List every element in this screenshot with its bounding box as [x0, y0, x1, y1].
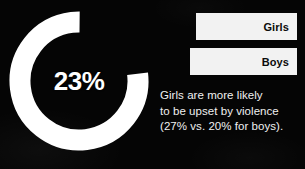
caption-line-2: to be upset by violence — [160, 104, 305, 120]
caption-line-1: Girls are more likely — [160, 88, 305, 104]
bar-boys[interactable]: Boys — [190, 48, 297, 75]
donut-chart: 23% — [8, 10, 150, 152]
caption-line-3: (27% vs. 20% for boys). — [160, 119, 305, 135]
bar-girls[interactable]: Girls — [196, 13, 297, 40]
infographic-panel: 23% Girls Boys Girls are more likely to … — [0, 0, 305, 169]
donut-center-value: 23% — [8, 10, 150, 152]
caption-text: Girls are more likely to be upset by vio… — [160, 88, 305, 135]
bar-boys-label: Boys — [262, 56, 297, 68]
bar-group: Girls Boys — [150, 0, 305, 84]
bar-girls-label: Girls — [263, 21, 297, 33]
